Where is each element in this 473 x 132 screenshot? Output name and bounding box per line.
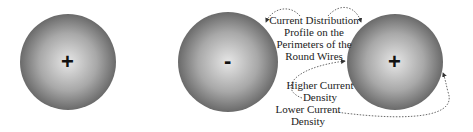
profile-line-3: Perimeters of the <box>268 38 360 50</box>
wire-1-sign: + <box>61 49 74 75</box>
higher-line-2: Density <box>280 91 360 103</box>
profile-label: Current Distribution Profile on the Peri… <box>268 14 360 62</box>
lower-density-label: Lower Current Density <box>270 103 346 127</box>
profile-line-1: Current Distribution <box>268 14 360 26</box>
lower-line-2: Density <box>270 115 346 127</box>
higher-density-label: Higher Current Density <box>280 79 360 103</box>
lower-line-1: Lower Current <box>270 103 346 115</box>
wire-2-sign: - <box>224 48 231 74</box>
wire-3-sign: + <box>388 49 401 75</box>
profile-line-4: Round Wires <box>268 50 360 62</box>
profile-line-2: Profile on the <box>268 26 360 38</box>
higher-line-1: Higher Current <box>280 79 360 91</box>
